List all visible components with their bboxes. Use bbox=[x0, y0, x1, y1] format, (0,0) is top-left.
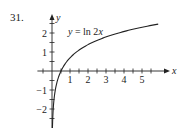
y-axis-label: y bbox=[55, 12, 61, 23]
x-tick-label: 2 bbox=[86, 74, 91, 85]
x-tick-label: 3 bbox=[104, 74, 109, 85]
x-tick-label: 4 bbox=[122, 74, 127, 85]
y-axis-arrow-icon bbox=[50, 14, 55, 20]
function-plot: 12345−2−112xyy = ln 2x bbox=[0, 0, 177, 136]
y-tick-label: 1 bbox=[42, 47, 47, 58]
x-tick-label: 1 bbox=[68, 74, 73, 85]
y-tick-label: −2 bbox=[36, 104, 47, 115]
x-axis-arrow-icon bbox=[164, 69, 170, 74]
y-tick-label: 2 bbox=[42, 28, 47, 39]
x-axis-label: x bbox=[171, 65, 177, 76]
function-label: y = ln 2x bbox=[67, 26, 103, 37]
y-tick-label: −1 bbox=[36, 85, 47, 96]
x-tick-label: 5 bbox=[140, 74, 145, 85]
